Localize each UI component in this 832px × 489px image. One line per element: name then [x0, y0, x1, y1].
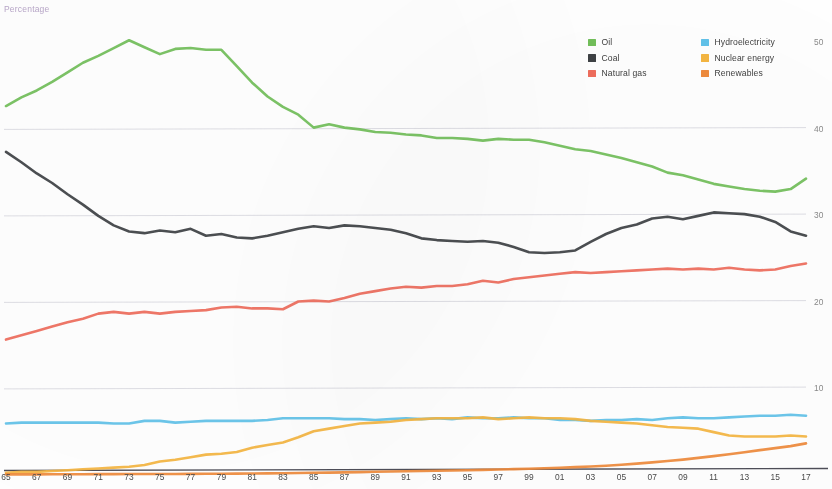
legend-swatch-coal — [588, 54, 596, 62]
legend-column-1: Oil Coal Natural gas — [588, 38, 683, 78]
gridlines — [4, 41, 806, 389]
x-tick-67: 67 — [32, 472, 42, 482]
legend-item-nuclear-energy[interactable]: Nuclear energy — [701, 54, 801, 63]
legend-item-coal[interactable]: Coal — [588, 54, 683, 63]
x-axis-tick-labels: 6567697173757779818385878991939597990103… — [0, 470, 832, 489]
y-tick-10: 10 — [814, 383, 823, 393]
chart-legend: Oil Coal Natural gas Hydroelectricity Nu… — [588, 38, 803, 78]
x-tick-99: 99 — [524, 472, 534, 482]
x-tick-13: 13 — [740, 472, 750, 482]
series-line-nuclear-energy — [6, 417, 806, 472]
x-tick-85: 85 — [309, 472, 319, 482]
y-axis-tick-labels: 1020304050 — [806, 0, 832, 489]
x-tick-75: 75 — [155, 472, 165, 482]
x-tick-03: 03 — [586, 472, 596, 482]
x-tick-95: 95 — [463, 472, 473, 482]
x-tick-89: 89 — [370, 472, 380, 482]
x-tick-11: 11 — [709, 472, 718, 482]
legend-swatch-renewables — [701, 70, 709, 78]
x-tick-69: 69 — [63, 472, 73, 482]
legend-label-nuclear-energy: Nuclear energy — [715, 54, 775, 63]
legend-column-2: Hydroelectricity Nuclear energy Renewabl… — [701, 38, 801, 78]
legend-swatch-hydroelectricity — [701, 39, 709, 47]
legend-label-coal: Coal — [602, 54, 620, 63]
x-tick-83: 83 — [278, 472, 288, 482]
energy-mix-chart: Percentage Oil Coal Natural gas Hydroele… — [0, 0, 832, 489]
x-tick-01: 01 — [555, 472, 565, 482]
y-tick-50: 50 — [814, 37, 823, 47]
x-tick-77: 77 — [186, 472, 196, 482]
x-tick-97: 97 — [494, 472, 504, 482]
legend-label-oil: Oil — [602, 38, 613, 47]
x-tick-73: 73 — [124, 472, 134, 482]
y-tick-30: 30 — [814, 210, 823, 220]
legend-item-natural-gas[interactable]: Natural gas — [588, 69, 683, 78]
series-line-coal — [6, 152, 806, 253]
x-tick-15: 15 — [770, 472, 780, 482]
legend-item-oil[interactable]: Oil — [588, 38, 683, 47]
x-tick-71: 71 — [94, 472, 104, 482]
legend-item-hydroelectricity[interactable]: Hydroelectricity — [701, 38, 801, 47]
y-tick-40: 40 — [814, 124, 823, 134]
y-tick-20: 20 — [814, 297, 823, 307]
legend-label-natural-gas: Natural gas — [602, 69, 647, 78]
legend-label-hydroelectricity: Hydroelectricity — [715, 38, 775, 47]
legend-swatch-natural-gas — [588, 70, 596, 78]
x-tick-87: 87 — [340, 472, 350, 482]
x-tick-65: 65 — [1, 472, 11, 482]
x-tick-81: 81 — [247, 472, 257, 482]
x-tick-91: 91 — [401, 472, 411, 482]
legend-item-renewables[interactable]: Renewables — [701, 69, 801, 78]
x-tick-79: 79 — [217, 472, 227, 482]
x-tick-05: 05 — [617, 472, 627, 482]
x-tick-09: 09 — [678, 472, 688, 482]
legend-label-renewables: Renewables — [715, 69, 763, 78]
x-tick-93: 93 — [432, 472, 442, 482]
legend-swatch-nuclear-energy — [701, 54, 709, 62]
series-lines — [6, 40, 806, 474]
legend-swatch-oil — [588, 39, 596, 47]
x-tick-07: 07 — [647, 472, 657, 482]
